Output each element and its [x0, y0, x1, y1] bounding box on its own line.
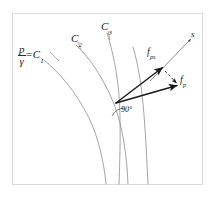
label-c1-name: C: [33, 48, 40, 60]
label-c2-subscript: 2: [78, 41, 81, 48]
label-c3-subscript: 3: [108, 29, 111, 36]
curve-c3: [107, 33, 120, 184]
label-curve-c3: C3: [101, 21, 112, 35]
component-connector: [165, 71, 177, 83]
label-c1-subscript: 1: [40, 57, 43, 64]
label-right-angle: 90°: [121, 106, 132, 114]
fraction-numerator: p: [18, 44, 26, 55]
figure-container: p γ =C1 C2 C3 fps fp s 90°: [0, 0, 215, 200]
fraction-p-over-gamma: p γ: [18, 44, 26, 67]
fraction-denominator: γ: [18, 55, 26, 67]
curve-c1: [41, 58, 106, 184]
label-curve-c2: C2: [71, 33, 82, 47]
label-fps-subscript: ps: [150, 53, 156, 60]
label-head-c1: p γ =C1: [18, 44, 43, 67]
label-f-p: fp: [180, 75, 186, 87]
f-p-vector: [116, 86, 177, 104]
leader-line-c1: [50, 52, 59, 61]
curve-c4: [133, 47, 148, 184]
equals-sign: =: [26, 48, 33, 60]
label-s-axis: s: [191, 30, 195, 39]
label-f-ps: fps: [147, 47, 155, 59]
label-fp-subscript: p: [183, 81, 186, 88]
figure-border: [13, 14, 203, 185]
